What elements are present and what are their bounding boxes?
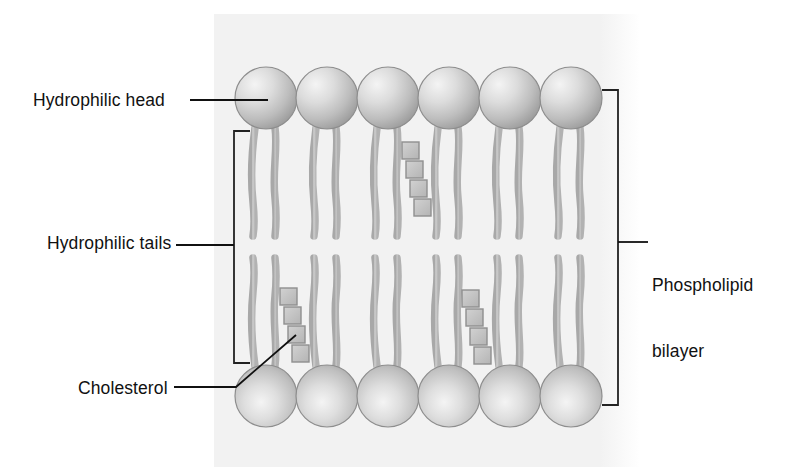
- hydrophilic-head: [540, 365, 602, 427]
- label-phospholipid-bilayer-line1: Phospholipid: [652, 274, 753, 296]
- hydrophilic-head-row-bottom: [235, 365, 602, 427]
- bracket-phospholipid-bilayer: [602, 90, 618, 405]
- label-hydrophilic-head: Hydrophilic head: [33, 89, 165, 111]
- hydrophilic-head: [235, 365, 297, 427]
- cholesterol-molecule-lower-right: [462, 290, 491, 364]
- label-phospholipid-bilayer-line2: bilayer: [652, 340, 753, 362]
- hydrophilic-head: [540, 67, 602, 129]
- hydrophilic-head: [479, 67, 541, 129]
- label-cholesterol: Cholesterol: [78, 377, 168, 399]
- hydrophilic-head: [418, 365, 480, 427]
- hydrophilic-head-row-top: [235, 67, 602, 129]
- label-phospholipid-bilayer: Phospholipid bilayer: [652, 230, 753, 406]
- diagram-canvas: Hydrophilic head Hydrophilic tails Chole…: [0, 0, 796, 467]
- hydrophilic-head: [357, 365, 419, 427]
- hydrophilic-head: [235, 67, 297, 129]
- cholesterol-molecule-lower-left: [280, 288, 309, 362]
- hydrophilic-head: [418, 67, 480, 129]
- hydrophilic-head: [296, 365, 358, 427]
- hydrophilic-head: [479, 365, 541, 427]
- bracket-hydrophilic-tails: [234, 131, 250, 363]
- hydrophilic-head: [357, 67, 419, 129]
- hydrophilic-head: [296, 67, 358, 129]
- cholesterol-molecule-upper: [402, 142, 431, 216]
- label-hydrophilic-tails: Hydrophilic tails: [47, 232, 171, 254]
